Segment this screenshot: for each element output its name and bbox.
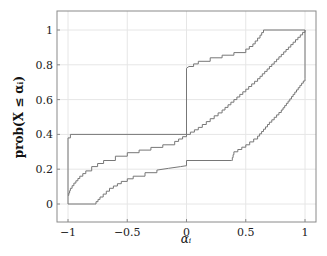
y-tick-label: 0.4 <box>36 128 54 141</box>
x-tick-label: 0.5 <box>237 226 255 239</box>
x-tick-label: −1 <box>60 226 76 239</box>
y-axis-ticks: 00.20.40.60.81 <box>36 24 61 211</box>
x-tick-label: −0.5 <box>114 226 141 239</box>
y-tick-label: 1 <box>46 24 53 37</box>
x-axis-label: αᵢ <box>181 232 192 246</box>
y-tick-label: 0.8 <box>36 59 54 72</box>
y-tick-label: 0 <box>46 198 53 211</box>
y-tick-label: 0.2 <box>36 163 54 176</box>
x-tick-label: 1 <box>302 226 309 239</box>
y-axis-label: prob(X ≤ αᵢ) <box>12 76 26 158</box>
chart: −1−0.500.51 00.20.40.60.81 αᵢ prob(X ≤ α… <box>0 0 327 256</box>
y-tick-label: 0.6 <box>36 94 54 107</box>
